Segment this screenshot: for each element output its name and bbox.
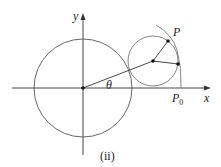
angle-label: θ: [106, 79, 112, 91]
point-p0-label: P0: [172, 92, 183, 107]
y-axis-label: y: [73, 10, 78, 22]
x-axis-arrow-icon: [204, 86, 211, 91]
radius-to-p: [153, 41, 168, 61]
y-axis-arrow-icon: [81, 13, 86, 20]
contact-point: [176, 62, 180, 66]
radius-to-point: [153, 61, 178, 64]
rolling-center-point: [151, 59, 155, 63]
point-p: [166, 39, 170, 43]
origin-point: [81, 86, 85, 90]
point-p0-subscript: 0: [179, 98, 183, 107]
point-p-label: P: [173, 26, 180, 38]
x-axis-label: x: [204, 92, 209, 104]
figure-caption: (ii): [100, 150, 115, 162]
